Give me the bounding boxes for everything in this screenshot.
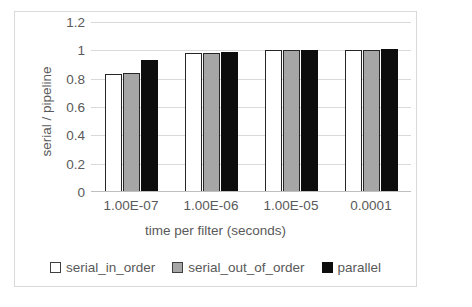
bar-parallel[interactable] [221, 52, 238, 192]
x-axis-tick-labels: 1.00E-071.00E-061.00E-050.0001 [91, 198, 411, 213]
x-tick-label: 1.00E-05 [251, 198, 331, 213]
y-tick-label: 1.2 [45, 15, 85, 30]
x-axis-title: time per filter (seconds) [15, 223, 416, 238]
legend-label: parallel [338, 260, 382, 275]
plot-area [91, 22, 411, 192]
y-tick-label: 0.2 [45, 156, 85, 171]
y-tick-label: 0.6 [45, 100, 85, 115]
x-tick-label: 0.0001 [331, 198, 411, 213]
bar-serial_out_of_order[interactable] [123, 73, 140, 192]
y-tick-label: 0.8 [45, 71, 85, 86]
bar-group [251, 22, 331, 192]
y-tick-label: 0.4 [45, 128, 85, 143]
bar-parallel[interactable] [301, 50, 318, 192]
bar-serial_out_of_order[interactable] [363, 50, 380, 192]
bar-group [331, 22, 411, 192]
legend-item-serial_out_of_order[interactable]: serial_out_of_order [172, 260, 304, 275]
legend-label: serial_in_order [66, 260, 155, 275]
x-axis-baseline [91, 191, 411, 192]
legend-label: serial_out_of_order [188, 260, 304, 275]
x-tick-label: 1.00E-06 [171, 198, 251, 213]
legend-item-parallel[interactable]: parallel [322, 260, 382, 275]
bar-serial_in_order[interactable] [345, 50, 362, 192]
y-tick-label: 1 [45, 43, 85, 58]
bar-serial_in_order[interactable] [265, 50, 282, 192]
chart-container: serial / pipeline 00.20.40.60.811.2 1.00… [14, 11, 417, 287]
bar-serial_out_of_order[interactable] [203, 53, 220, 192]
y-axis-tick-labels: 00.20.40.60.811.2 [45, 22, 85, 192]
bar-serial_in_order[interactable] [105, 74, 122, 192]
bar-parallel[interactable] [141, 60, 158, 192]
bar-group [91, 22, 171, 192]
chart-legend: serial_in_orderserial_out_of_orderparall… [15, 260, 416, 275]
legend-swatch-icon [322, 262, 333, 273]
y-tick-label: 0 [45, 185, 85, 200]
legend-item-serial_in_order[interactable]: serial_in_order [50, 260, 155, 275]
x-tick-label: 1.00E-07 [91, 198, 171, 213]
bar-groups [91, 22, 411, 192]
legend-swatch-icon [50, 262, 61, 273]
bar-group [171, 22, 251, 192]
bar-parallel[interactable] [381, 49, 398, 192]
bar-serial_out_of_order[interactable] [283, 50, 300, 192]
legend-swatch-icon [172, 262, 183, 273]
bar-serial_in_order[interactable] [185, 53, 202, 192]
